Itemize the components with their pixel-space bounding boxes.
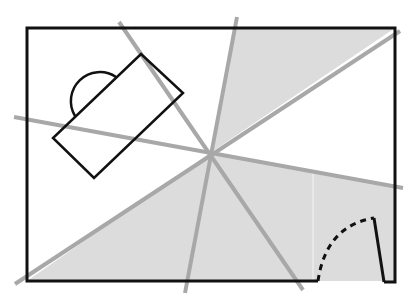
- chair: [71, 72, 116, 116]
- desk: [53, 54, 183, 178]
- floor-plan-diagram: [0, 0, 408, 304]
- shaded-region: [210, 28, 395, 153]
- shaded-region: [27, 153, 395, 281]
